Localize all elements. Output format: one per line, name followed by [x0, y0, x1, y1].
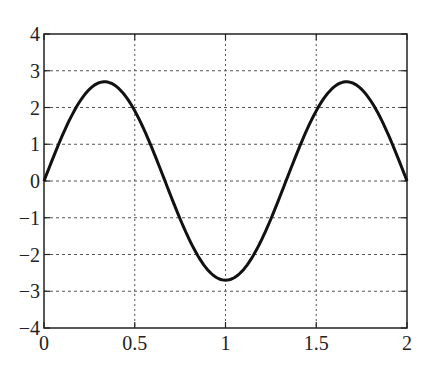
y-tick-label: 4	[30, 23, 40, 45]
grid-lines	[44, 34, 407, 328]
y-axis-tick-labels: 43210−1−2−3−4	[19, 23, 40, 339]
y-tick-label: 0	[30, 170, 40, 192]
y-tick-label: −3	[19, 280, 40, 302]
x-tick-label: 0.5	[122, 332, 147, 354]
chart: 43210−1−2−3−4 00.511.52	[0, 0, 428, 377]
y-tick-label: −1	[19, 207, 40, 229]
y-tick-label: 1	[30, 133, 40, 155]
x-tick-label: 0	[39, 332, 49, 354]
y-tick-label: 2	[30, 97, 40, 119]
x-tick-label: 1	[221, 332, 231, 354]
y-tick-label: 3	[30, 60, 40, 82]
x-tick-label: 2	[402, 332, 412, 354]
y-tick-label: −2	[19, 244, 40, 266]
x-axis-tick-labels: 00.511.52	[39, 332, 412, 354]
y-tick-label: −4	[19, 317, 40, 339]
x-tick-label: 1.5	[304, 332, 329, 354]
